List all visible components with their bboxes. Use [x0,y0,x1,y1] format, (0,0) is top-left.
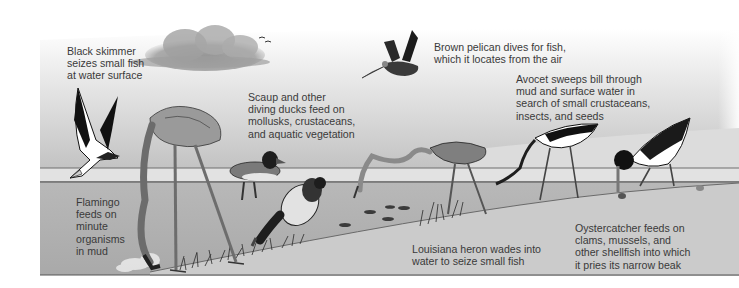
label-louisiana-heron: Louisiana heron wades into water to seiz… [412,243,541,267]
label-flamingo: Flamingo feeds on minute organisms in mu… [76,196,125,257]
label-scaup: Scaup and other diving ducks feed on mol… [248,91,355,140]
label-brown-pelican: Brown pelican dives for fish, which it l… [434,41,566,65]
label-avocet: Avocet sweeps bill through mud and surfa… [516,73,650,122]
shorebird-feeding-diagram: Black skimmer seizes small fish at water… [0,0,739,288]
label-black-skimmer: Black skimmer seizes small fish at water… [67,45,144,82]
label-oystercatcher: Oystercatcher feeds on clams, mussels, a… [575,222,690,271]
